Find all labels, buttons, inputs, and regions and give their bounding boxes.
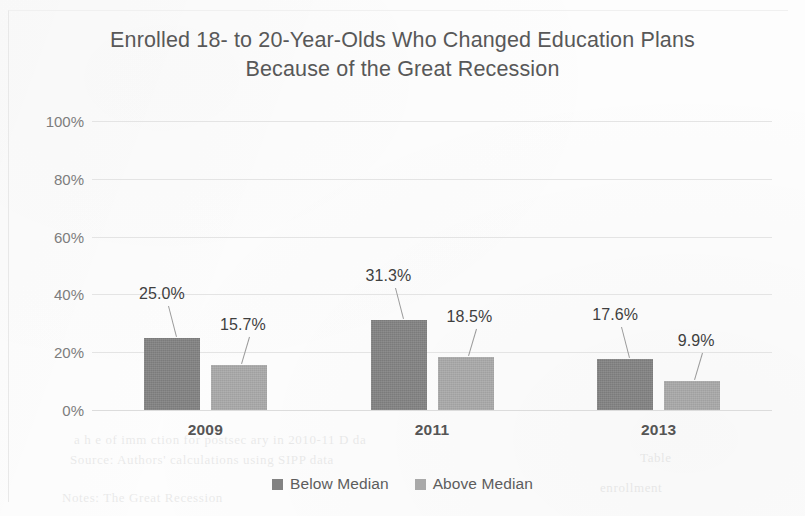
bar-scan-texture [211, 365, 267, 410]
x-axis-label-2011: 2011 [415, 421, 449, 439]
y-axis-tick-label: 40% [14, 286, 84, 303]
y-axis: 0%20%40%60%80%100% [8, 121, 84, 410]
bleed-through-text: Source: Authors' calculations using SIPP… [70, 452, 334, 468]
data-label-2013-below-median: 17.6% [585, 306, 645, 324]
plot-area: 25.0%15.7%31.3%18.5%17.6%9.9% [92, 121, 772, 410]
x-axis: 200920112013 [92, 421, 772, 449]
data-label-2009-above-median: 15.7% [213, 316, 273, 334]
legend-label: Below Median [290, 475, 389, 493]
x-axis-label-2009: 2009 [188, 421, 223, 439]
gridline-0% [92, 410, 772, 411]
chart-legend: Below MedianAbove Median [0, 475, 805, 493]
bar-2011-below-median[interactable] [371, 320, 427, 410]
gridline-40% [92, 294, 772, 295]
bar-scan-texture [597, 359, 653, 410]
data-label-2013-above-median: 9.9% [666, 332, 726, 350]
bar-2013-below-median[interactable] [597, 359, 653, 410]
legend-swatch-icon [415, 479, 426, 490]
data-label-leader-line [694, 353, 703, 380]
chart-title: Enrolled 18- to 20-Year-Olds Who Changed… [0, 26, 805, 84]
bar-2009-above-median[interactable] [211, 365, 267, 410]
gridline-80% [92, 179, 772, 180]
legend-item-below-median[interactable]: Below Median [272, 475, 389, 493]
x-axis-label-2013: 2013 [641, 421, 676, 439]
y-axis-tick-label: 80% [14, 170, 84, 187]
data-label-leader-line [621, 327, 630, 358]
bleed-through-text: Table [640, 450, 672, 466]
legend-swatch-icon [272, 479, 283, 490]
gridline-60% [92, 237, 772, 238]
y-axis-tick-label: 60% [14, 228, 84, 245]
bar-2009-below-median[interactable] [144, 338, 200, 410]
data-label-leader-line [395, 287, 404, 318]
chart-title-line-1: Enrolled 18- to 20-Year-Olds Who Changed… [110, 28, 695, 52]
data-label-2011-below-median: 31.3% [359, 267, 419, 285]
bar-scan-texture [664, 381, 720, 410]
legend-label: Above Median [433, 475, 533, 493]
data-label-leader-line [241, 336, 250, 363]
y-axis-tick-label: 100% [14, 113, 84, 130]
chart-page: a h e of imm ction for postsec ary in 20… [0, 0, 805, 516]
legend-item-above-median[interactable]: Above Median [415, 475, 533, 493]
bar-scan-texture [438, 357, 494, 410]
bar-2013-above-median[interactable] [664, 381, 720, 410]
y-axis-tick-label: 20% [14, 344, 84, 361]
data-label-2009-below-median: 25.0% [132, 285, 192, 303]
bar-scan-texture [144, 338, 200, 410]
chart-title-line-2: Because of the Great Recession [0, 55, 805, 84]
bar-2011-above-median[interactable] [438, 357, 494, 410]
data-label-2011-above-median: 18.5% [440, 308, 500, 326]
bar-scan-texture [371, 320, 427, 410]
gridline-100% [92, 121, 772, 122]
data-label-leader-line [168, 306, 177, 337]
y-axis-tick-label: 0% [14, 402, 84, 419]
